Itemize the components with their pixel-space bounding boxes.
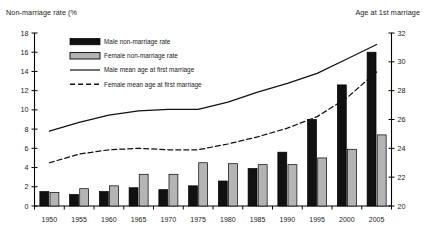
legend-label-1: Female non-marriage rate bbox=[104, 52, 178, 60]
left-axis-tick-label: 0 bbox=[25, 202, 29, 211]
bar-male-1960 bbox=[99, 192, 108, 206]
x-axis-tick-label: 1985 bbox=[250, 216, 266, 223]
bar-female-1995 bbox=[318, 158, 327, 206]
bar-male-1965 bbox=[129, 188, 138, 206]
right-axis-tick-label: 26 bbox=[398, 115, 406, 124]
bar-female-1950 bbox=[50, 193, 59, 206]
bar-male-1995 bbox=[308, 120, 317, 207]
left-axis-tick-label: 2 bbox=[25, 182, 29, 191]
chart-plot-area: 024681012141618 20222426283032 195019551… bbox=[0, 0, 426, 243]
left-axis-tick-label: 10 bbox=[21, 105, 29, 114]
legend-swatch-male-bar bbox=[70, 38, 100, 44]
bar-series-group bbox=[40, 52, 386, 206]
left-axis-tick-label: 14 bbox=[21, 67, 29, 76]
left-axis-tick-label: 16 bbox=[21, 48, 29, 57]
left-axis-tick-label: 4 bbox=[25, 163, 29, 172]
right-axis-tick-label: 20 bbox=[398, 202, 406, 211]
bar-female-1990 bbox=[288, 165, 297, 206]
x-axis-tick-label: 1950 bbox=[42, 216, 58, 223]
right-axis-tick-label: 22 bbox=[398, 173, 406, 182]
x-axis-tick-label: 1960 bbox=[101, 216, 117, 223]
x-axis-tick-label: 1975 bbox=[190, 216, 206, 223]
line-series-group bbox=[49, 45, 376, 163]
x-axis-tick-label: 1990 bbox=[280, 216, 296, 223]
bar-female-1975 bbox=[199, 163, 208, 206]
bar-female-1965 bbox=[139, 174, 148, 206]
x-axis-tick-label: 1995 bbox=[309, 216, 325, 223]
bar-female-2005 bbox=[377, 135, 386, 206]
x-axis-tick-label: 1955 bbox=[71, 216, 87, 223]
left-axis-tick-label: 12 bbox=[21, 86, 29, 95]
legend-label-2: Male mean age at first marriage bbox=[104, 66, 195, 74]
bar-male-1975 bbox=[189, 186, 198, 206]
x-axis: 1950195519601965197019751980198519901995… bbox=[35, 206, 392, 223]
legend-label-3: Female mean age at first marriage bbox=[104, 81, 202, 89]
bar-female-1985 bbox=[258, 165, 267, 206]
bar-female-1970 bbox=[169, 174, 178, 206]
right-axis-tick-label: 30 bbox=[398, 57, 406, 66]
bar-male-1970 bbox=[159, 190, 168, 206]
bar-female-1960 bbox=[109, 186, 118, 206]
bar-male-1950 bbox=[40, 192, 49, 206]
bar-male-1980 bbox=[218, 181, 227, 206]
left-axis-tick-label: 18 bbox=[21, 29, 29, 38]
bar-male-1990 bbox=[278, 152, 287, 206]
x-axis-tick-label: 1980 bbox=[220, 216, 236, 223]
chart-container: Non-marriage rate (% Age at 1st marriage… bbox=[0, 0, 426, 243]
bar-male-2005 bbox=[367, 52, 376, 206]
right-axis-tick-label: 24 bbox=[398, 144, 406, 153]
x-axis-tick-label: 2005 bbox=[369, 216, 385, 223]
right-axis-tick-label: 28 bbox=[398, 86, 406, 95]
x-axis-tick-label: 1965 bbox=[131, 216, 147, 223]
chart-legend: Male non-marriage rateFemale non-marriag… bbox=[70, 38, 202, 89]
bar-female-2000 bbox=[347, 149, 356, 206]
right-axis: 20222426283032 bbox=[389, 29, 406, 211]
legend-label-0: Male non-marriage rate bbox=[104, 38, 171, 46]
right-axis-tick-label: 32 bbox=[398, 29, 406, 38]
left-axis-tick-label: 6 bbox=[25, 144, 29, 153]
bar-female-1980 bbox=[228, 164, 237, 206]
x-axis-tick-label: 2000 bbox=[339, 216, 355, 223]
bar-male-1955 bbox=[70, 194, 79, 206]
left-axis-tick-label: 8 bbox=[25, 125, 29, 134]
bar-female-1955 bbox=[80, 189, 89, 206]
bar-male-1985 bbox=[248, 169, 257, 206]
legend-swatch-female-bar bbox=[70, 53, 100, 59]
left-axis: 024681012141618 bbox=[21, 29, 38, 211]
x-axis-tick-label: 1970 bbox=[161, 216, 177, 223]
